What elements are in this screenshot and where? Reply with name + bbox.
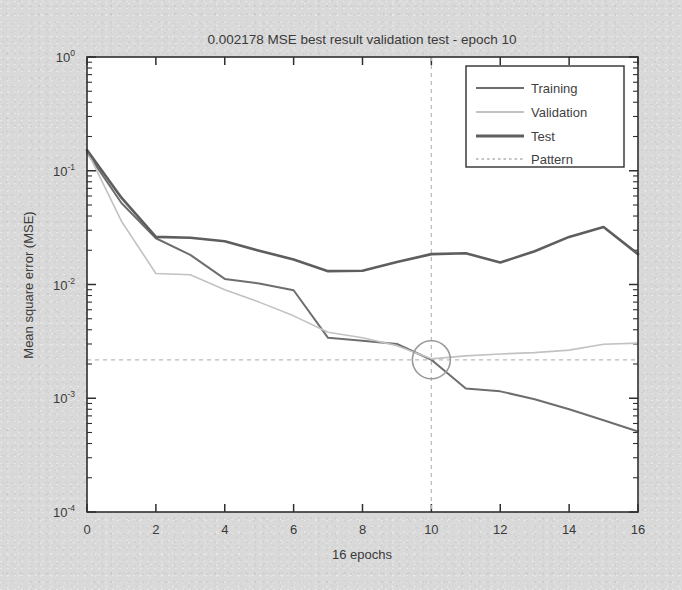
x-tick-label: 4 bbox=[221, 522, 228, 537]
y-tick-label: 10-2 bbox=[53, 276, 75, 293]
x-tick-label: 2 bbox=[152, 522, 159, 537]
x-tick-label: 0 bbox=[83, 522, 90, 537]
y-tick-label: 10-4 bbox=[53, 503, 75, 520]
legend-label-pattern: Pattern bbox=[531, 152, 573, 167]
x-tick-label: 8 bbox=[359, 522, 366, 537]
y-tick-label: 100 bbox=[56, 48, 75, 65]
x-tick-label: 6 bbox=[290, 522, 297, 537]
legend-label-validation: Validation bbox=[531, 105, 587, 120]
chart-title: 0.002178 MSE best result validation test… bbox=[207, 32, 516, 47]
figure-canvas: 0.002178 MSE best result validation test… bbox=[0, 0, 682, 590]
chart-svg: 0.002178 MSE best result validation test… bbox=[0, 0, 682, 590]
y-axis-label: Mean square error (MSE) bbox=[21, 211, 36, 358]
legend[interactable]: Training Validation Test Pattern bbox=[466, 66, 624, 167]
x-tick-label: 10 bbox=[424, 522, 438, 537]
y-tick-label: 10-1 bbox=[53, 162, 75, 179]
legend-label-training: Training bbox=[531, 81, 577, 96]
x-tick-label: 12 bbox=[493, 522, 507, 537]
x-tick-label: 14 bbox=[562, 522, 576, 537]
legend-label-test: Test bbox=[531, 129, 555, 144]
y-tick-label: 10-3 bbox=[53, 389, 75, 406]
x-axis-label: 16 epochs bbox=[332, 547, 392, 562]
x-tick-label: 16 bbox=[631, 522, 645, 537]
